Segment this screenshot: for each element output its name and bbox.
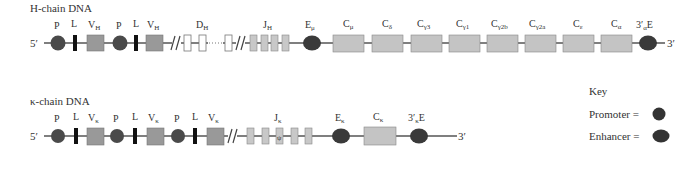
h-leader-label-2: L — [133, 18, 139, 29]
h-promoter-2 — [113, 36, 128, 51]
h-d-segment-2 — [199, 35, 206, 51]
k-enhancer-intronic — [332, 129, 350, 144]
h-promoter-1 — [51, 36, 66, 51]
k-leader-3 — [193, 128, 197, 144]
gene-diagram: H-chain DNA 5′ 3′ P L VH P L VH DH JH Eμ — [0, 0, 700, 174]
h-c-epsilon-label: Cε — [573, 18, 583, 31]
h-c-gamma2a — [525, 35, 556, 52]
key-enhancer-icon — [653, 130, 670, 143]
h-j-label: JH — [263, 19, 272, 32]
k-v-segment-1 — [87, 128, 104, 145]
k-break — [228, 129, 237, 143]
h-3prime-enhancer — [639, 36, 657, 51]
h-c-gamma1 — [449, 35, 480, 52]
h-j-segment-1 — [250, 35, 257, 51]
h-j-segment-3 — [271, 35, 278, 51]
key-title: Key — [589, 85, 608, 97]
k-v-segment-3 — [207, 128, 224, 145]
k-v-label-3: Vκ — [208, 112, 219, 125]
h-d-segment-1 — [184, 35, 191, 51]
k-v-label-1: Vκ — [88, 112, 99, 125]
k-leader-2 — [133, 128, 137, 144]
k-leader-label-1: L — [73, 111, 79, 122]
h-j-segment-4 — [282, 35, 289, 51]
k-promoter-label-2: P — [113, 113, 119, 124]
h-j-segment-2 — [261, 35, 268, 51]
k-three-prime: 3′ — [458, 130, 466, 142]
k-3prime-enhancer-label: 3′κE — [408, 112, 425, 125]
h-c-mu-label: Cμ — [343, 18, 354, 31]
h-break-2 — [236, 36, 245, 50]
h-promoter-label-1: P — [54, 20, 60, 31]
k-j-label: Jκ — [274, 112, 282, 125]
h-c-gamma2a-label: Cγ2a — [529, 18, 546, 31]
h-five-prime: 5′ — [30, 37, 38, 49]
h-v-label-2: VH — [147, 19, 159, 32]
h-c-gamma3-label: Cγ3 — [417, 18, 431, 31]
k-j-segment-5 — [305, 128, 312, 144]
key-promoter-icon — [653, 108, 666, 121]
h-c-gamma1-label: Cγ1 — [456, 18, 470, 31]
h-three-prime: 3′ — [667, 37, 675, 49]
h-v-label-1: VH — [88, 19, 100, 32]
k-j-segment-4 — [291, 128, 298, 144]
h-c-delta — [372, 35, 403, 52]
k-promoter-3 — [171, 129, 185, 143]
h-c-alpha-label: Cα — [611, 18, 622, 31]
k-promoter-2 — [110, 129, 124, 143]
h-c-gamma2b — [487, 35, 518, 52]
h-c-alpha — [601, 35, 632, 52]
h-c-mu — [333, 35, 364, 52]
k-leader-label-3: L — [192, 111, 198, 122]
k-c-kappa-label: Cκ — [373, 111, 384, 124]
k-e-kappa-label: Eκ — [335, 112, 345, 125]
k-v-segment-2 — [147, 128, 164, 145]
k-j-segment-1 — [247, 128, 254, 144]
k-3prime-enhancer — [410, 129, 428, 144]
k-promoter-1 — [51, 129, 65, 143]
h-d-label: DH — [196, 19, 208, 32]
h-leader-2 — [134, 35, 138, 51]
key-enhancer-label: Enhancer = — [589, 130, 639, 142]
k-promoter-label-1: P — [54, 113, 60, 124]
h-break-1 — [171, 36, 180, 50]
k-leader-label-2: L — [132, 111, 138, 122]
key-promoter-label: Promoter = — [589, 108, 639, 120]
k-psi-mark: ψ — [277, 134, 282, 142]
h-d-segment-3 — [225, 35, 232, 51]
k-c-kappa — [364, 127, 396, 145]
h-c-gamma2b-label: Cγ2b — [491, 18, 508, 31]
k-leader-1 — [74, 128, 78, 144]
h-enhancer-mu — [303, 36, 321, 51]
k-five-prime: 5′ — [30, 130, 38, 142]
h-v-segment-2 — [146, 35, 163, 51]
h-c-gamma3 — [411, 35, 442, 52]
h-v-segment-1 — [87, 35, 104, 51]
k-promoter-label-3: P — [174, 113, 180, 124]
k-v-label-2: Vκ — [148, 112, 159, 125]
h-c-epsilon — [563, 35, 594, 52]
h-promoter-label-2: P — [116, 20, 122, 31]
h-chain-title: H-chain DNA — [30, 2, 92, 14]
k-j-segment-2 — [262, 128, 269, 144]
h-c-delta-label: Cδ — [382, 18, 393, 31]
h-3prime-enhancer-label: 3′αE — [636, 19, 653, 32]
h-e-mu-label: Eμ — [305, 19, 315, 32]
h-leader-label-1: L — [71, 18, 77, 29]
h-leader-1 — [73, 35, 77, 51]
kappa-chain-title: κ-chain DNA — [30, 95, 90, 107]
